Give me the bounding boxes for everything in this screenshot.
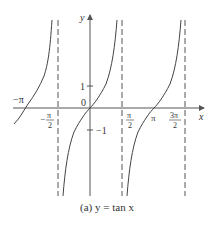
x-tick-label-neg-pi: −π <box>13 94 24 105</box>
y-tick-label-1: 1 <box>80 81 85 92</box>
x-tick-label-half-pi-den: 2 <box>128 121 132 130</box>
y-axis-label: y <box>79 12 85 23</box>
origin-label: 0 <box>81 97 86 108</box>
x-tick-label-neg-half-pi-num: π <box>47 111 51 120</box>
x-tick-label-neg-half-pi-sign: − <box>40 114 45 124</box>
x-tick-label-half-pi-num: π <box>127 111 131 120</box>
x-tick-label-three-half-pi-num: 3π <box>170 111 178 120</box>
y-tick-label-neg1: −1 <box>96 125 107 136</box>
x-tick-label-neg-half-pi-den: 2 <box>48 121 52 130</box>
x-tick-label-pi: π <box>151 113 156 123</box>
chart-caption: (a) y = tan x <box>0 201 214 213</box>
x-axis-label: x <box>198 111 204 122</box>
x-tick-label-three-half-pi-den: 2 <box>173 121 177 130</box>
